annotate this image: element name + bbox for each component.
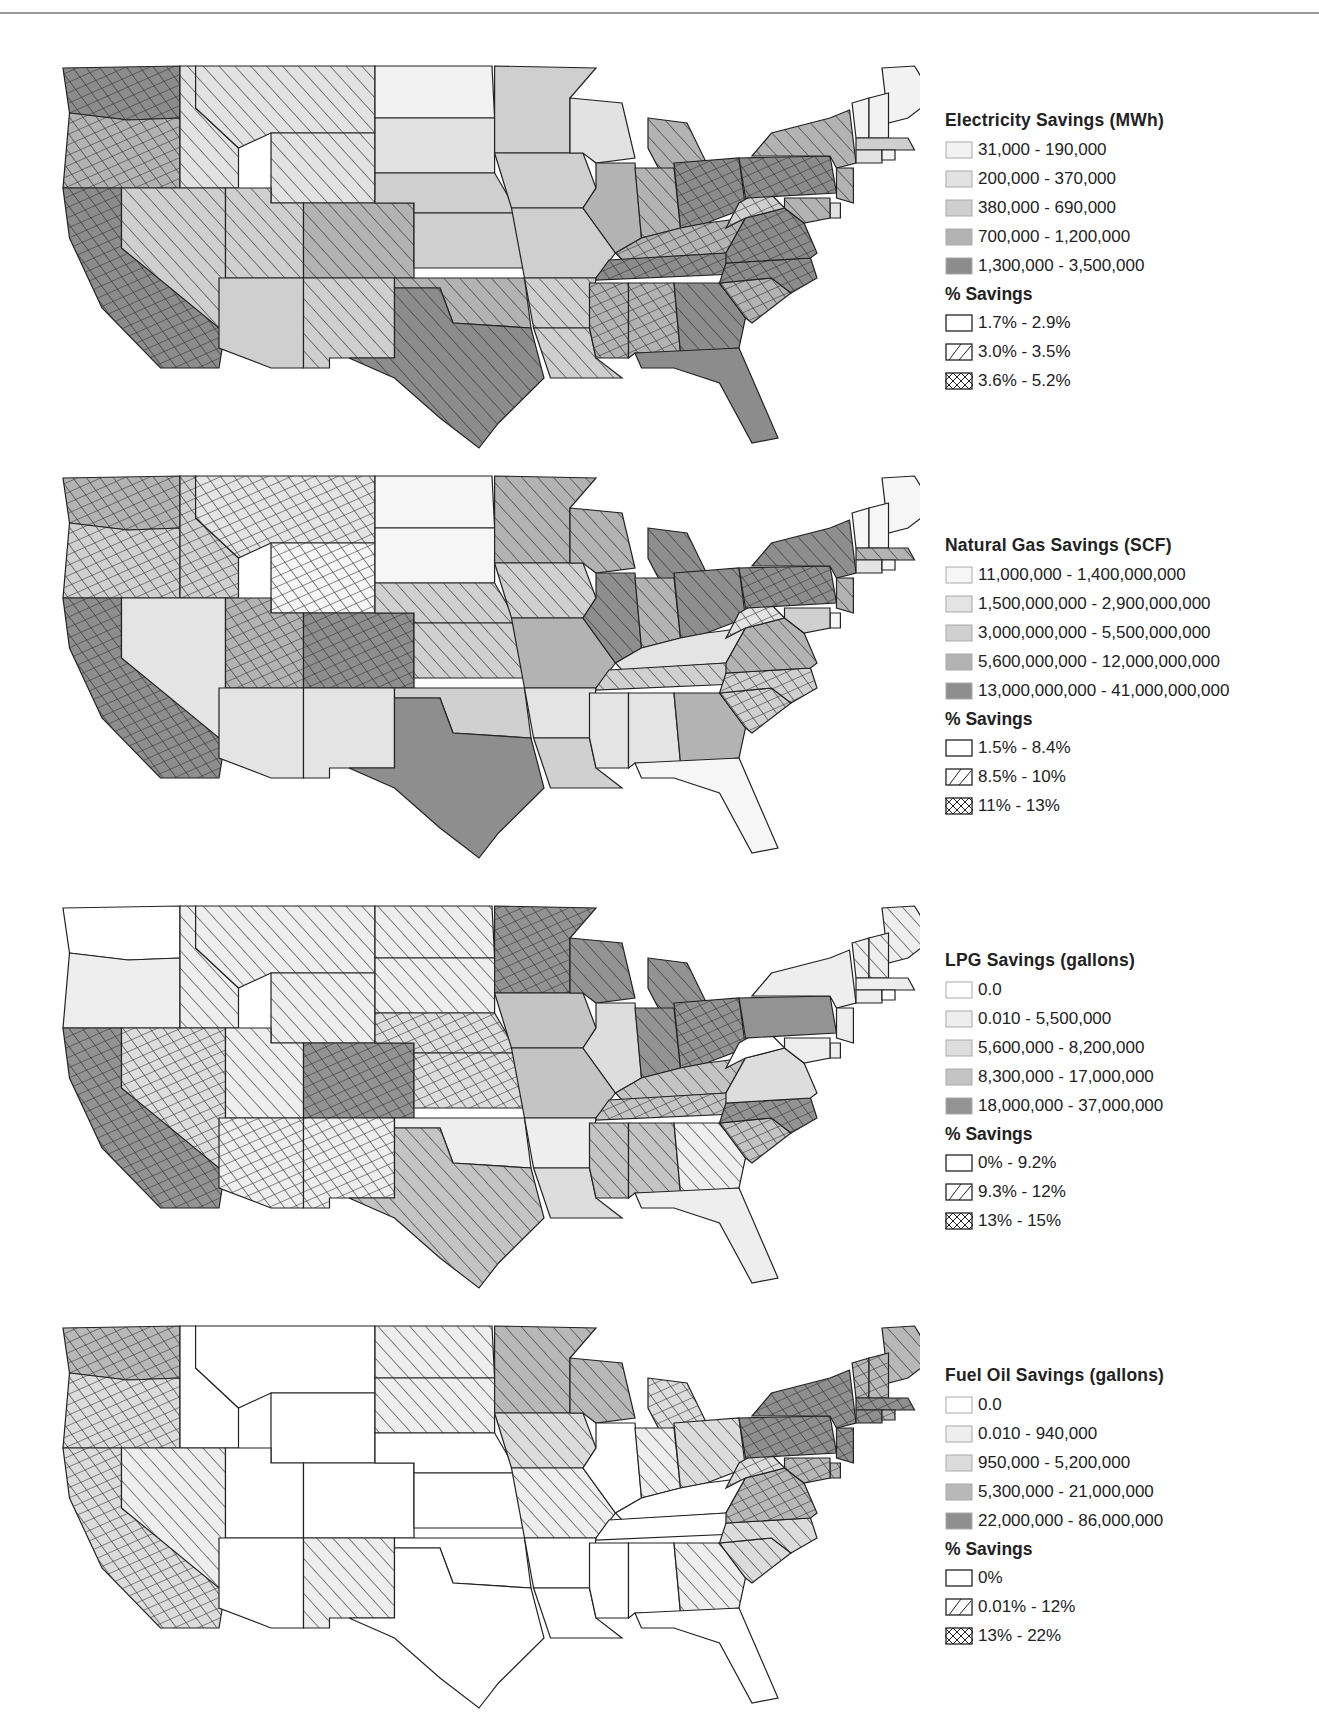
legend-pattern-class: 11% - 13% [945,791,1285,820]
legend-pattern-class: 3.0% - 3.5% [945,337,1285,366]
state-ks-pattern [414,623,525,678]
natural-gas-savings-panel: Natural Gas Savings (SCF)11,000,000 - 1,… [0,440,1319,860]
state-ma-pattern [856,1398,914,1410]
hatch-pattern-icon [945,768,973,786]
state-al-pattern [629,283,681,358]
legend-fill-class: 22,000,000 - 86,000,000 [945,1506,1285,1535]
legend-label: 0.0 [978,1395,1002,1415]
legend-fill-class: 0.0 [945,975,1285,1004]
state-in-pattern [635,1008,681,1078]
state-ks [414,213,525,268]
empty-pattern-icon [945,739,973,757]
legend-label: 1,500,000,000 - 2,900,000,000 [978,594,1211,614]
legend-label: 380,000 - 690,000 [978,198,1116,218]
legend-fill-class: 700,000 - 1,200,000 [945,222,1285,251]
state-pa [739,996,837,1038]
legend-label: 0% [978,1568,1003,1588]
legend-label: 8,300,000 - 17,000,000 [978,1067,1154,1087]
legend-label: 8.5% - 10% [978,767,1066,787]
state-ks [414,1473,525,1528]
legend-label: 3.0% - 3.5% [978,342,1071,362]
legend-fill-class: 5,600,000 - 8,200,000 [945,1033,1285,1062]
state-ms-pattern [590,283,629,358]
empty-pattern-icon [945,1569,973,1587]
legend-swatch [945,1483,973,1501]
legend-swatch [945,624,973,642]
state-ks-pattern [414,1053,525,1108]
natural-gas-map [40,440,920,860]
state-fl [635,348,778,443]
legend-fill-class: 380,000 - 690,000 [945,193,1285,222]
legend-fill-class: 0.010 - 940,000 [945,1419,1285,1448]
legend-label: 1.7% - 2.9% [978,313,1071,333]
state-vt [852,508,869,548]
state-az [219,688,304,778]
legend-label: 950,000 - 5,200,000 [978,1453,1130,1473]
state-sd [375,528,495,583]
state-al-pattern [629,1123,681,1198]
state-vt-pattern [852,1358,869,1398]
state-wy-pattern [271,973,375,1043]
legend-swatch [945,595,973,613]
state-ri [882,150,895,160]
lpg-savings-panel: LPG Savings (gallons)0.00.010 - 5,500,00… [0,870,1319,1290]
legend-swatch [945,228,973,246]
state-nj-pattern [837,168,854,203]
state-wa-pattern [63,1326,180,1380]
legend-swatch [945,257,973,275]
legend-label: 5,300,000 - 21,000,000 [978,1482,1154,1502]
page-header-rule [0,12,1319,14]
hatch-pattern-icon [945,1183,973,1201]
crosshatch-pattern-icon [945,1627,973,1645]
legend-swatch [945,1425,973,1443]
state-or-pattern [63,1373,180,1448]
legend-swatch [945,566,973,584]
state-de [830,613,840,628]
state-ma-pattern [856,548,914,560]
legend-fill-class: 950,000 - 5,200,000 [945,1448,1285,1477]
legend-label: 13% - 22% [978,1626,1061,1646]
legend-fill-class: 5,300,000 - 21,000,000 [945,1477,1285,1506]
state-nm [304,688,395,778]
lpg-map [40,870,920,1290]
state-sd-pattern [375,1378,495,1433]
state-ri [882,990,895,1000]
state-in-pattern [635,578,681,648]
state-nj-pattern [837,1428,854,1463]
state-wy-pattern [271,543,375,613]
state-sd-pattern [375,958,495,1013]
legend-pattern-class: 0.01% - 12% [945,1592,1285,1621]
legend-fill-class: 0.0 [945,1390,1285,1419]
legend-label: 3,000,000,000 - 5,500,000,000 [978,623,1211,643]
legend-swatch [945,682,973,700]
state-ms-pattern [590,1123,629,1198]
legend-swatch [945,653,973,671]
state-nj-pattern [837,578,854,613]
natural-gas-legend: Natural Gas Savings (SCF)11,000,000 - 1,… [945,535,1285,820]
state-fl [635,1608,778,1703]
state-fl [635,1188,778,1283]
state-ri-pattern [882,1410,895,1420]
state-nj [837,1008,854,1043]
electricity-map [40,30,920,450]
legend-label: 5,600,000 - 8,200,000 [978,1038,1144,1058]
state-wi [570,98,635,163]
state-al [629,693,681,768]
state-vt-pattern [852,938,869,978]
state-or-pattern [63,113,180,188]
state-ia [495,153,596,208]
state-ct [856,560,882,573]
state-nh [869,93,888,138]
legend-swatch [945,1097,973,1115]
legend-label: 22,000,000 - 86,000,000 [978,1511,1163,1531]
state-ct [856,150,882,163]
legend-label: 0.010 - 5,500,000 [978,1009,1111,1029]
state-az [219,278,304,368]
state-co-pattern [304,1043,415,1118]
state-ct-pattern [856,1410,882,1423]
legend-label: 1.5% - 8.4% [978,738,1071,758]
legend-label: 700,000 - 1,200,000 [978,227,1130,247]
hatch-pattern-icon [945,343,973,361]
fuel-oil-savings-panel: Fuel Oil Savings (gallons)0.00.010 - 940… [0,1290,1319,1718]
fuel-oil-legend: Fuel Oil Savings (gallons)0.00.010 - 940… [945,1365,1285,1650]
